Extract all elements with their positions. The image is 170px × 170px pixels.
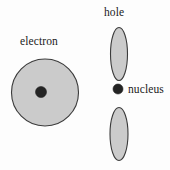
hole-label: hole [104, 7, 124, 19]
electron-nucleus-dot [36, 87, 47, 98]
figure-canvas: electron hole nucleus [0, 0, 170, 170]
hole-nucleus-dot [113, 84, 123, 94]
nucleus-label: nucleus [128, 84, 164, 96]
electron-label: electron [20, 36, 58, 48]
hole-lobe-upper [111, 28, 128, 81]
hole-lobe-lower [110, 108, 128, 161]
